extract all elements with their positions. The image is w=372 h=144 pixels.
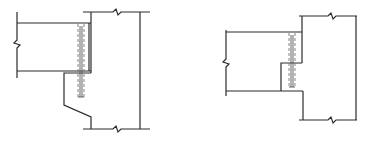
figure-right-dapped-connection: [223, 13, 357, 123]
beam-left: [14, 12, 91, 78]
column-bottom-break: [299, 117, 357, 123]
corbel-outline: [64, 73, 91, 129]
dowel-bar-left: [78, 24, 84, 97]
beam-break-line: [223, 30, 229, 96]
beam-break-line: [14, 12, 20, 78]
dowel-bar-right: [289, 33, 295, 87]
diagram-canvas: [0, 0, 372, 144]
figure-left-corbel-connection: [14, 9, 150, 132]
column-top-break: [299, 13, 357, 19]
column-right: [299, 13, 357, 123]
